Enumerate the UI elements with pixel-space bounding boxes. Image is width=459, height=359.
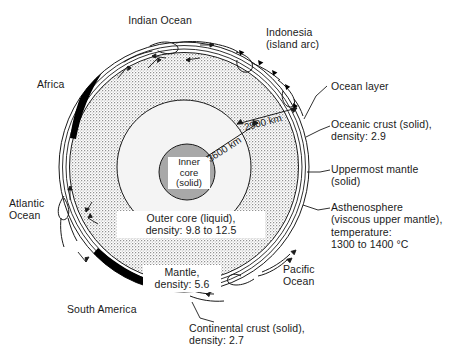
leader-ocean-layer	[304, 86, 327, 119]
label-pacific-ocean: Pacific Ocean	[283, 263, 315, 288]
leader-continental-crust	[192, 302, 214, 322]
label-outer-core: Outer core (liquid), density: 9.8 to 12.…	[117, 211, 265, 238]
leader-oceanic-crust	[306, 126, 330, 137]
leader-uppermost-mantle	[307, 170, 330, 172]
label-continental-crust: Continental crust (solid), density: 2.7	[189, 322, 305, 347]
label-south-america: South America	[67, 303, 137, 315]
label-oceanic-crust: Oceanic crust (solid), density: 2.9	[331, 118, 432, 143]
earth-cross-section-diagram: Indian Ocean Indonesia (island arc) Afri…	[0, 0, 459, 359]
label-indonesia: Indonesia (island arc)	[266, 26, 319, 51]
label-africa: Africa	[37, 78, 64, 90]
label-uppermost-mantle: Uppermost mantle (solid)	[331, 163, 418, 188]
label-asthenosphere: Asthenosphere (viscous upper mantle), te…	[331, 201, 442, 251]
label-ocean-layer: Ocean layer	[331, 80, 389, 92]
label-mantle: Mantle, density: 5.6	[143, 265, 221, 292]
label-inner-core: Inner core (solid)	[168, 157, 210, 189]
leader-asthenosphere	[303, 205, 330, 210]
label-indian-ocean: Indian Ocean	[103, 14, 217, 26]
label-atlantic-ocean: Atlantic Ocean	[9, 197, 44, 222]
